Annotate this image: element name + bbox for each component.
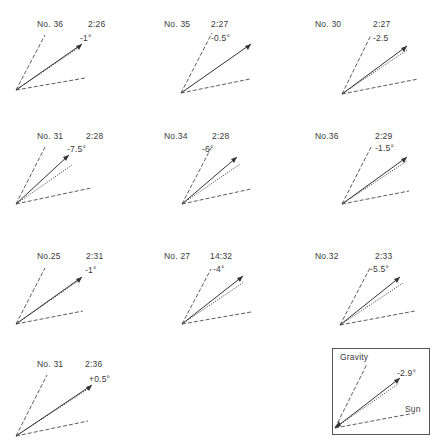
legend-diagram-icon [0, 0, 444, 448]
